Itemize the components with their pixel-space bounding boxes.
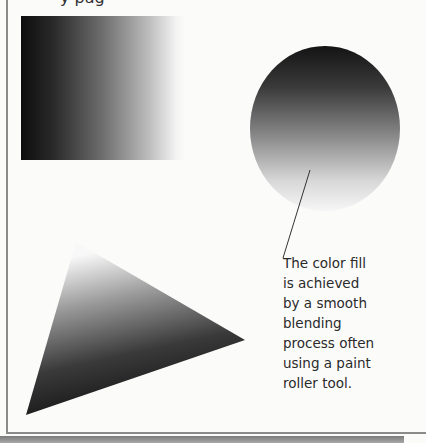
caption-line: blending (283, 313, 403, 333)
caption-line: The color fill (283, 253, 403, 273)
caption-line: is achieved (283, 273, 403, 293)
gradient-rectangle (21, 16, 185, 160)
caption-line: roller tool. (283, 373, 403, 393)
clipped-heading-text: y pag (60, 0, 105, 7)
caption-line: process often (283, 333, 403, 353)
caption-line: using a paint (283, 353, 403, 373)
gradient-triangle (0, 220, 260, 420)
figure-caption: The color fill is achieved by a smooth b… (283, 253, 403, 393)
page-bottom-shadow (0, 436, 404, 443)
gradient-oval (250, 46, 400, 211)
caption-line: by a smooth (283, 293, 403, 313)
